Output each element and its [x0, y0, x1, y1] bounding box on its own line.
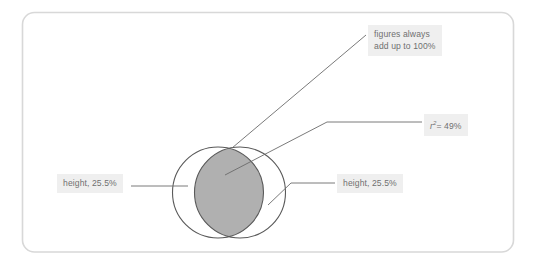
venn-diagram-group [173, 147, 286, 238]
callout-total-line1: figures always [374, 29, 430, 39]
callout-total-percentage: figures always add up to 100% [368, 25, 442, 56]
callout-height-right: height, 25.5% [337, 174, 403, 193]
leader-line-total [232, 35, 366, 148]
callout-height-left: height, 25.5% [57, 174, 123, 193]
leader-line-height-right [268, 183, 335, 205]
callout-r-squared: r2= 49% [424, 114, 468, 136]
r-squared-value: = 49% [436, 121, 461, 131]
callout-total-line2: add up to 100% [374, 40, 436, 52]
figure-root: figures always add up to 100% r2= 49% he… [0, 0, 535, 266]
